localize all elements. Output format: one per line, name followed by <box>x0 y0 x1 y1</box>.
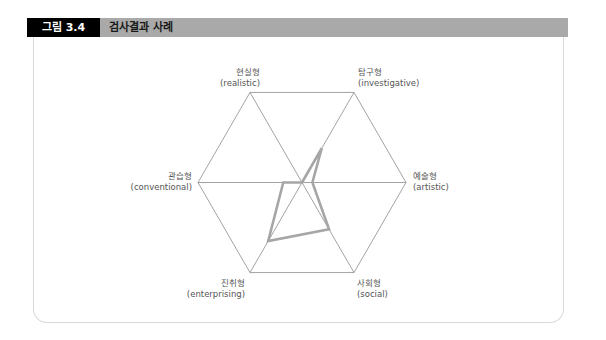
axis-label-conventional: 관습형(conventional) <box>131 171 192 193</box>
data-polygon <box>268 148 329 241</box>
radar-chart <box>0 0 606 340</box>
axis-label-artistic: 예술형(artistic) <box>413 171 449 193</box>
axis-label-investigative: 탐구형(investigative) <box>358 67 419 89</box>
axis-label-enterprising: 진취형(enterprising) <box>187 278 245 300</box>
axis-label-social: 사회형(social) <box>357 278 388 300</box>
axis-label-realistic: 현실형(realistic) <box>220 67 260 89</box>
